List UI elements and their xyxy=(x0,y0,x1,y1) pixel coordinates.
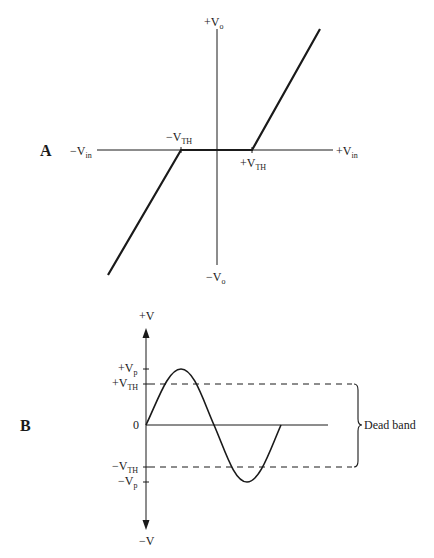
neg-threshold-label: −VTH xyxy=(166,130,192,146)
dead-band-label: Dead band xyxy=(364,418,416,432)
panel-a: A −Vin +Vin +Vo −Vo −VTH +VTH xyxy=(40,15,358,286)
dead-band-brace xyxy=(354,384,362,467)
panel-b: B +V −V 0 +Vp +VTH −VTH −Vp Dead band xyxy=(20,309,416,548)
pos-th-label: +VTH xyxy=(112,376,138,392)
pos-threshold-label: +VTH xyxy=(240,156,266,172)
diagram-canvas: A −Vin +Vin +Vo −Vo −VTH +VTH B +V −V 0 xyxy=(0,0,434,558)
up-arrow-icon xyxy=(143,328,150,338)
pos-peak-label: +Vp xyxy=(118,361,137,377)
zero-label: 0 xyxy=(133,418,139,432)
y-neg-label: −Vo xyxy=(206,270,225,286)
transfer-curve xyxy=(108,29,320,275)
panel-a-label: A xyxy=(40,142,52,159)
down-arrow-icon xyxy=(143,520,150,530)
neg-peak-label: −Vp xyxy=(118,474,137,490)
axis-bottom-label: −V xyxy=(139,534,155,548)
x-neg-label: −Vin xyxy=(70,144,92,160)
neg-th-label: −VTH xyxy=(112,459,138,475)
axis-top-label: +V xyxy=(139,309,155,323)
x-pos-label: +Vin xyxy=(336,144,358,160)
panel-b-label: B xyxy=(20,417,31,434)
y-pos-label: +Vo xyxy=(204,15,223,31)
